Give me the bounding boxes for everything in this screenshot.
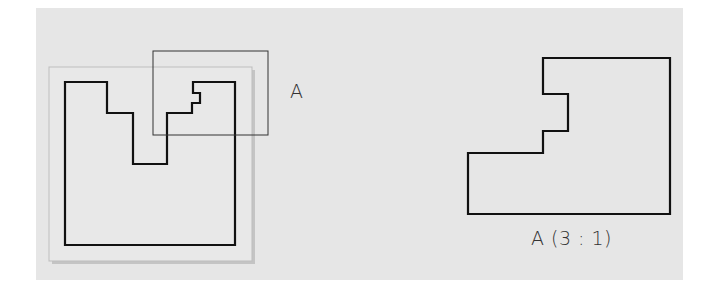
detail-view-outline: [468, 58, 670, 214]
detail-callout-label: A: [290, 80, 303, 102]
detail-view-scale-label: A (3 : 1): [531, 227, 612, 249]
